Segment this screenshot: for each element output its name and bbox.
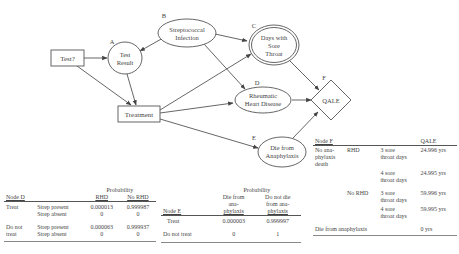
row-cond: Strep absent xyxy=(35,211,83,218)
cell-qale: 0 yrs xyxy=(418,220,457,236)
edge-testresult-to-treatment xyxy=(127,74,136,105)
group-line2: phylaxis xyxy=(315,154,343,161)
cell-rhd: 0.000063 xyxy=(84,218,120,231)
cell-rhd xyxy=(345,204,378,220)
cell-days: 3 sore throat days xyxy=(378,146,418,169)
cell-not-die: 0.999997 xyxy=(255,216,301,226)
cell-qale: 24.995 yrs xyxy=(418,168,457,184)
group-line3: death xyxy=(315,161,343,168)
col-not-die-line3: phylaxis xyxy=(257,208,299,215)
cell-rhd: RHD xyxy=(345,146,378,169)
edge-treatment-to-anaphylaxis xyxy=(160,119,258,148)
col-not-die-line1: Do not die xyxy=(257,194,299,201)
cell-rhd: 0.000013 xyxy=(84,202,120,212)
col-die-line1: Die from xyxy=(215,194,253,201)
cell-days: 4 sore throat days xyxy=(378,204,418,220)
node-letter-c: C xyxy=(252,22,256,29)
node-test-result[interactable]: A Test Result xyxy=(108,38,142,74)
node-strep-infection[interactable]: B Streptococcal Infection xyxy=(158,12,216,47)
cell-not-die: 1 xyxy=(255,225,301,243)
days-line2: throat days xyxy=(380,177,416,184)
row-group: treat xyxy=(4,231,35,242)
row-group: Do not xyxy=(4,218,35,231)
node-letter-f: F xyxy=(322,74,326,81)
node-anaphylaxis-line2: Anaphylaxis xyxy=(266,152,299,159)
table-row: Do not Strep present 0.000063 0.999937 xyxy=(4,218,156,231)
table-node-f: Node F QALE No ana- phylaxis death RHD 3… xyxy=(313,138,457,236)
row-label-anaphylaxis: Die from anaphylaxis xyxy=(313,220,418,236)
table-node-e: Probability Node E Die from ana- phylaxi… xyxy=(161,187,301,243)
edge-strep-to-rhd xyxy=(204,44,245,89)
days-line2: throat days xyxy=(380,197,416,204)
node-letter-b: B xyxy=(162,12,167,19)
prob-header: Probability xyxy=(213,187,301,194)
node-sore-throat-line1: Days with xyxy=(261,34,288,41)
table-row: treat Strep absent 0 0 xyxy=(4,231,156,242)
cell-days: 3 sore throat days xyxy=(378,184,418,204)
days-line2: throat days xyxy=(380,213,416,220)
node-letter-e: E xyxy=(252,134,256,141)
table-row: 4 sore throat days 59.995 yrs xyxy=(313,204,457,220)
row-cond: Strep absent xyxy=(35,231,83,242)
cell-no-rhd: 0 xyxy=(120,231,156,242)
edge-strep-to-testresult xyxy=(140,38,163,51)
cell-rhd xyxy=(345,168,378,184)
node-label: Node F xyxy=(313,138,345,146)
col-die-line2: ana- xyxy=(215,201,253,208)
col-not-die: Do not die from ana- phylaxis xyxy=(255,194,301,216)
node-letter-a: A xyxy=(110,38,115,45)
node-treatment[interactable]: Treatment xyxy=(118,106,160,122)
node-rhd[interactable]: D Rheumatic Heart Disease xyxy=(235,79,291,113)
table-node-d: Probability Node D RHD No RHD Treat Stre… xyxy=(4,187,156,242)
edge-sorethroat-to-qale xyxy=(289,60,319,90)
row-group xyxy=(4,211,35,218)
cell-qale: 59.996 yrs xyxy=(418,184,457,204)
node-sore-throat[interactable]: C Days with Sore Throat xyxy=(249,22,299,65)
cell-rhd: 0 xyxy=(84,231,120,242)
node-strep-line1: Streptococcal xyxy=(169,26,205,33)
node-label: Node E xyxy=(161,194,213,216)
cell-days: 4 sore throat days xyxy=(378,168,418,184)
col-no-rhd: No RHD xyxy=(120,194,156,202)
node-test-label: Test? xyxy=(60,55,75,63)
days-line1: 4 sore xyxy=(380,170,416,177)
cell-rhd: No RHD xyxy=(345,184,378,204)
edge-strep-to-sorethroat xyxy=(215,34,247,41)
row-cond: Strep present xyxy=(35,218,83,231)
table-row: No ana- phylaxis death RHD 3 sore throat… xyxy=(313,146,457,169)
table-row: 4 sore throat days 24.995 yrs xyxy=(313,168,457,184)
table-row: Treat Strep present 0.000013 0.999987 xyxy=(4,202,156,212)
table-row: No RHD 3 sore throat days 59.996 yrs xyxy=(313,184,457,204)
node-treatment-label: Treatment xyxy=(125,111,154,119)
node-rhd-line1: Rheumatic xyxy=(249,92,277,99)
node-label: Node D xyxy=(4,194,35,202)
col-rhd: RHD xyxy=(84,194,120,202)
prob-header: Probability xyxy=(84,187,156,194)
node-letter-d: D xyxy=(255,79,260,86)
cell-die: 0.000003 xyxy=(213,216,255,226)
days-line1: 4 sore xyxy=(380,206,416,213)
cell-no-rhd: 0 xyxy=(120,211,156,218)
group-line1: No ana- xyxy=(315,147,343,154)
node-test-result-line2: Result xyxy=(117,59,134,66)
row-group: Treat xyxy=(4,202,35,212)
table-row: Do not treat 0 1 xyxy=(161,225,301,243)
node-anaphylaxis[interactable]: E Die from Anaphylaxis xyxy=(252,134,306,167)
cell-qale: 59.995 yrs xyxy=(418,204,457,220)
node-anaphylaxis-line1: Die from xyxy=(270,144,294,151)
edge-anaphylaxis-to-qale xyxy=(293,112,318,138)
days-line2: throat days xyxy=(380,154,416,161)
cell-no-rhd: 0.999987 xyxy=(120,202,156,212)
table-row: Strep absent 0 0 xyxy=(4,211,156,218)
node-qale-label: QALE xyxy=(322,97,339,104)
row-cond: Strep present xyxy=(35,202,83,212)
node-sore-throat-line2: Sore xyxy=(268,42,280,49)
table-row: Treat 0.000003 0.999997 xyxy=(161,216,301,226)
node-test[interactable]: Test? xyxy=(51,50,84,66)
table-row: Die from anaphylaxis 0 yrs xyxy=(313,220,457,236)
cell-rhd: 0 xyxy=(84,211,120,218)
col-die-line3: phylaxis xyxy=(215,208,253,215)
row-label: Treat xyxy=(161,216,213,226)
node-strep-line2: Infection xyxy=(175,34,199,41)
days-line1: 3 sore xyxy=(380,190,416,197)
